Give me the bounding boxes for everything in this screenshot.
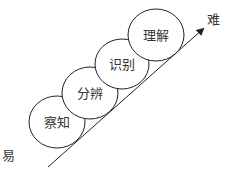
stage-label-1: 察知 — [44, 115, 70, 130]
easy-label: 易 — [2, 148, 15, 163]
stage-label-3: 识别 — [109, 57, 135, 72]
stage-label-2: 分辨 — [77, 86, 103, 101]
stage-label-4: 理解 — [143, 28, 169, 43]
difficulty-diagram: 察知 分辨 识别 理解 易 难 — [0, 0, 226, 179]
hard-label: 难 — [207, 12, 220, 27]
